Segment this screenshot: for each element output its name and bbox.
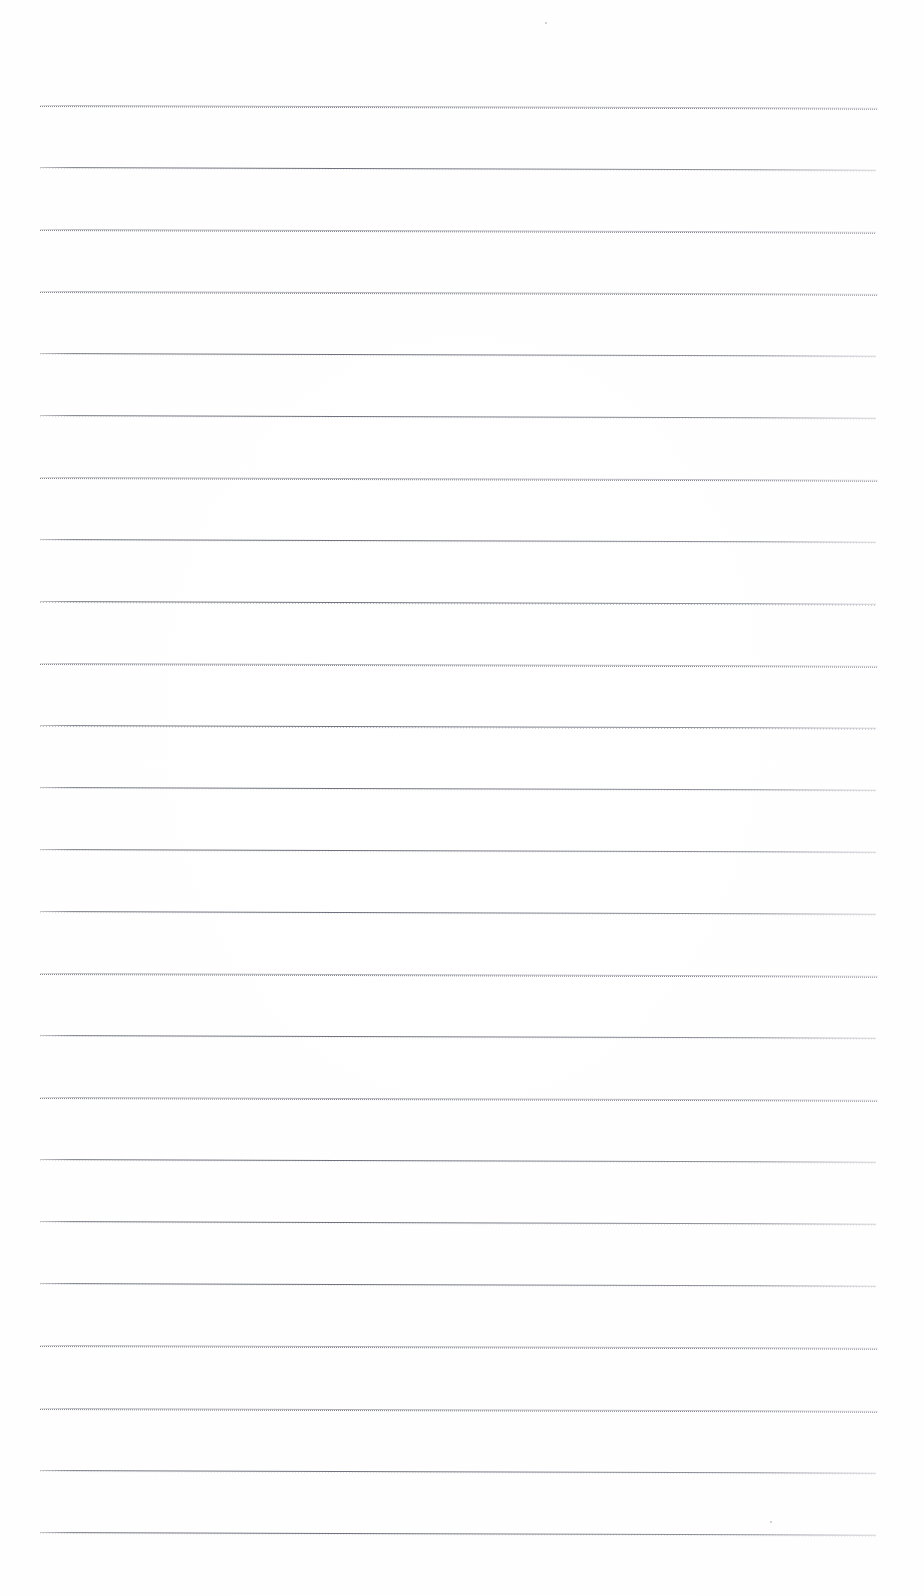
rule-stroke — [40, 291, 878, 295]
ruled-line — [40, 105, 878, 110]
rule-stroke — [40, 415, 876, 419]
rule-stroke — [40, 167, 876, 171]
rule-scan-fringe — [40, 230, 876, 234]
rule-stroke — [40, 1408, 878, 1412]
rule-scan-fringe — [40, 540, 876, 544]
rule-scan-fringe — [40, 1471, 876, 1475]
rule-scan-fringe — [40, 974, 878, 978]
rule-scan-fringe — [40, 106, 878, 110]
ruled-line — [40, 1035, 876, 1040]
rule-stroke — [40, 477, 878, 481]
ruled-line — [40, 1221, 876, 1226]
ruled-line — [40, 415, 876, 420]
ruled-line — [40, 353, 876, 358]
ruled-line — [40, 1283, 876, 1288]
rule-stroke — [40, 353, 876, 357]
ruled-line — [40, 849, 876, 854]
rule-stroke — [40, 849, 876, 853]
rule-scan-fringe — [40, 478, 878, 482]
rule-stroke — [40, 105, 878, 109]
ruled-lines-layer — [0, 0, 924, 1595]
rule-scan-fringe — [40, 912, 876, 916]
rule-scan-fringe — [40, 1409, 878, 1413]
rule-scan-fringe — [40, 416, 876, 420]
scanned-page — [0, 0, 924, 1595]
ruled-line — [40, 601, 876, 606]
rule-scan-fringe — [40, 1346, 878, 1350]
rule-scan-fringe — [40, 664, 878, 668]
ruled-line — [40, 911, 876, 916]
rule-stroke — [40, 1097, 878, 1101]
ruled-line — [40, 1159, 876, 1164]
rule-scan-fringe — [40, 168, 876, 172]
ruled-line — [40, 1470, 876, 1475]
rule-stroke — [40, 1035, 876, 1039]
ruled-line — [40, 1408, 878, 1413]
rule-stroke — [40, 1221, 876, 1225]
rule-stroke — [40, 973, 878, 977]
rule-stroke — [40, 911, 876, 915]
rule-stroke — [40, 1532, 876, 1536]
ruled-line — [40, 1532, 876, 1537]
ruled-line — [40, 1097, 878, 1102]
rule-scan-fringe — [40, 850, 876, 854]
rule-scan-fringe — [40, 354, 876, 358]
rule-scan-fringe — [40, 1533, 876, 1537]
rule-scan-fringe — [40, 602, 876, 606]
rule-stroke — [40, 1159, 876, 1163]
rule-scan-fringe — [40, 1036, 876, 1040]
rule-scan-fringe — [40, 788, 876, 792]
ruled-line — [40, 539, 876, 544]
ruled-line — [40, 229, 876, 234]
rule-stroke — [40, 1470, 876, 1474]
ruled-line — [40, 167, 876, 172]
ruled-line — [40, 973, 878, 978]
rule-scan-fringe — [40, 1160, 876, 1164]
ruled-line — [40, 663, 878, 668]
rule-scan-fringe — [40, 726, 876, 730]
rule-scan-fringe — [40, 1222, 876, 1226]
ruled-line — [40, 291, 878, 296]
rule-stroke — [40, 601, 876, 605]
rule-scan-fringe — [40, 1098, 878, 1102]
rule-stroke — [40, 1283, 876, 1287]
rule-stroke — [40, 539, 876, 543]
rule-stroke — [40, 229, 876, 233]
ruled-line — [40, 725, 876, 730]
rule-scan-fringe — [40, 1284, 876, 1288]
rule-stroke — [40, 787, 876, 791]
rule-stroke — [40, 725, 876, 729]
rule-stroke — [40, 1345, 878, 1349]
rule-scan-fringe — [40, 292, 878, 296]
ruled-line — [40, 787, 876, 792]
rule-stroke — [40, 663, 878, 667]
ruled-line — [40, 1345, 878, 1350]
ruled-line — [40, 477, 878, 482]
